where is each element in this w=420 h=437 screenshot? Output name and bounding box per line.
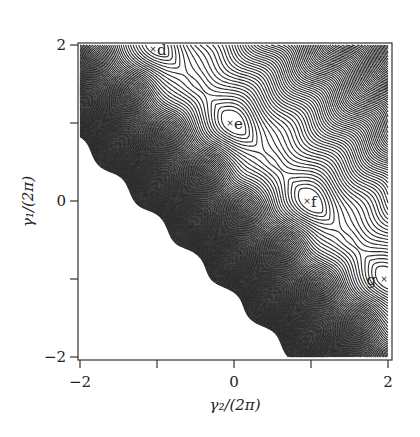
x-axis-label: γ₂/(2π) [209, 396, 260, 414]
minimum-label: d [157, 41, 167, 59]
minimum-marker: × [380, 274, 388, 284]
contour-lines [80, 45, 388, 357]
x-tick-label: −2 [69, 373, 91, 391]
minimum-marker: × [226, 118, 234, 128]
minimum-marker: × [149, 44, 157, 54]
minimum-label: g [366, 271, 376, 289]
minimum-label: e [234, 115, 243, 133]
y-tick-label: 0 [56, 192, 66, 210]
y-tick-label: −2 [44, 348, 66, 366]
x-tick-label: 2 [383, 373, 393, 391]
contour-chart: −202−202 ×d×e×f×g γ₂/(2π) γ₁/(2π) [0, 0, 420, 437]
minimum-marker: × [303, 196, 311, 206]
y-axis-label: γ₁/(2π) [19, 176, 37, 227]
y-tick-label: 2 [56, 36, 66, 54]
x-tick-label: 0 [229, 373, 239, 391]
minimum-label: f [311, 193, 318, 211]
